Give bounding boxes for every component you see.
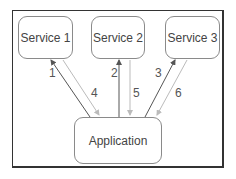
arrow-1 (51, 60, 90, 117)
service-3-label: Service 3 (167, 31, 217, 45)
edge-label-2: 2 (111, 66, 118, 80)
edge-label-5: 5 (133, 86, 140, 100)
service-2-label: Service 2 (93, 31, 143, 45)
service-3-node: Service 3 (165, 16, 220, 59)
service-2-node: Service 2 (91, 16, 145, 59)
edge-label-1: 1 (49, 66, 56, 80)
edge-label-4: 4 (91, 86, 98, 100)
application-label: Application (89, 134, 148, 148)
edge-label-6: 6 (175, 86, 182, 100)
service-1-node: Service 1 (18, 16, 73, 59)
edge-label-3: 3 (155, 66, 162, 80)
service-1-label: Service 1 (20, 31, 70, 45)
application-node: Application (74, 117, 162, 164)
